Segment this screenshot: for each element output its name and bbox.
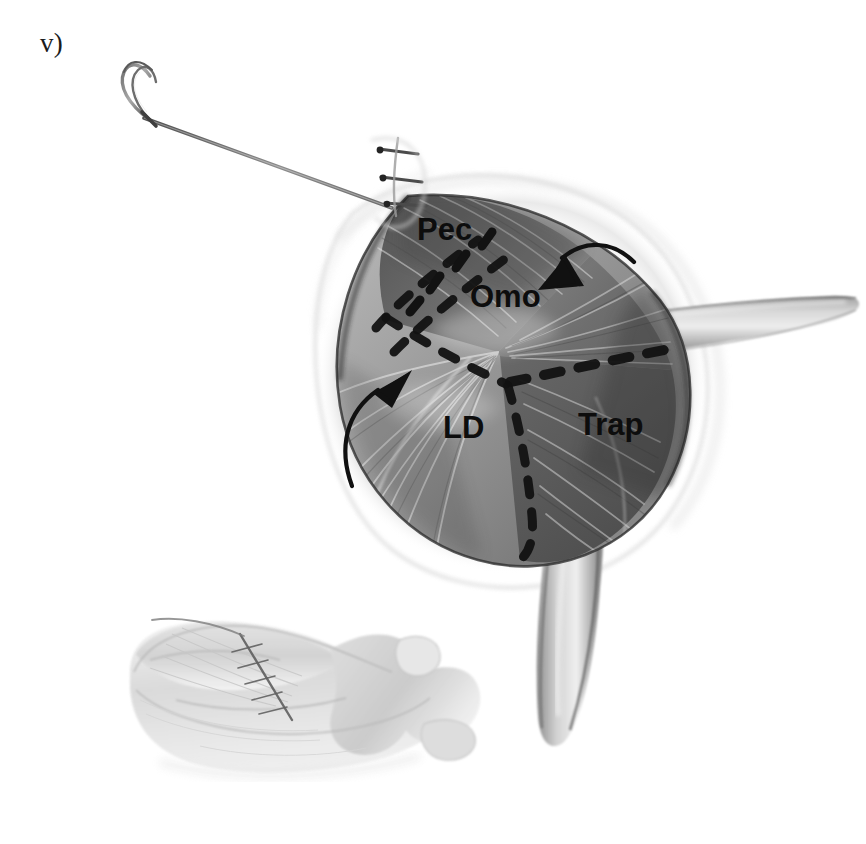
surgical-illustration-figure: v) Pec Omo LD Trap <box>0 0 866 844</box>
label-ld: LD <box>443 412 484 443</box>
curved-surgical-needle <box>122 62 156 126</box>
whole-animal-orientation-sketch <box>130 619 480 776</box>
label-trap: Trap <box>578 409 643 440</box>
panel-letter: v) <box>40 30 63 57</box>
label-pec: Pec <box>417 214 472 245</box>
label-omo: Omo <box>470 281 541 312</box>
suture-thread <box>144 118 392 208</box>
illustration-canvas <box>0 0 866 844</box>
